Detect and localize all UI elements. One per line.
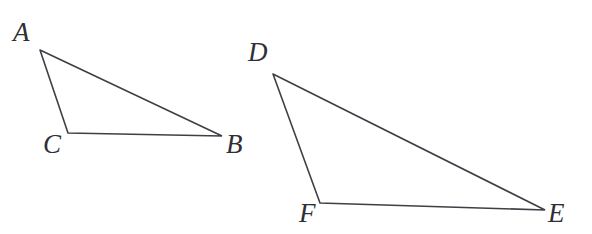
geometry-figure: A C B D F E <box>0 0 592 234</box>
canvas-background <box>0 0 592 234</box>
vertex-label-f: F <box>299 200 316 227</box>
vertex-label-d: D <box>248 39 268 66</box>
triangles-canvas <box>0 0 592 234</box>
vertex-label-c: C <box>43 131 61 158</box>
vertex-label-b: B <box>226 131 243 158</box>
vertex-label-e: E <box>548 200 565 227</box>
vertex-label-a: A <box>13 19 30 46</box>
